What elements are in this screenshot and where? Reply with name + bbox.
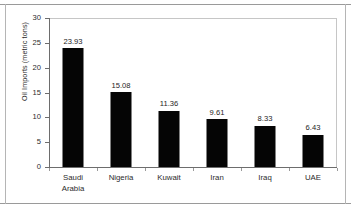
bar[interactable] bbox=[303, 135, 324, 167]
bar-value-label: 11.36 bbox=[160, 100, 178, 108]
x-axis-category: Kuwait bbox=[145, 173, 193, 184]
bar[interactable] bbox=[63, 48, 84, 167]
bar[interactable] bbox=[159, 111, 180, 167]
bar[interactable] bbox=[255, 126, 276, 167]
y-axis-tick-label: 30 bbox=[15, 14, 41, 22]
bar-value-label: 6.43 bbox=[306, 124, 321, 132]
x-axis-category-label: Iran bbox=[193, 173, 241, 184]
x-axis-category: Nigeria bbox=[97, 173, 145, 184]
bar-group[interactable]: 23.93 bbox=[49, 18, 97, 167]
x-axis-category-label: Iraq bbox=[241, 173, 289, 184]
y-axis-tick-label: 25 bbox=[15, 39, 41, 47]
y-axis-tick-label: 15 bbox=[15, 89, 41, 97]
bar[interactable] bbox=[111, 92, 132, 167]
x-axis-tick bbox=[193, 168, 194, 171]
x-axis-tick bbox=[145, 168, 146, 171]
x-axis-category-label: Kuwait bbox=[145, 173, 193, 184]
x-axis-tick bbox=[241, 168, 242, 171]
x-axis-category-label: Nigeria bbox=[97, 173, 145, 184]
x-axis-category-label: Saudi Arabia bbox=[49, 173, 97, 194]
y-axis-tick-label: 0 bbox=[15, 163, 41, 171]
bar-value-label: 8.33 bbox=[258, 115, 273, 123]
bar-group[interactable]: 6.43 bbox=[289, 18, 337, 167]
x-axis-tick bbox=[49, 168, 50, 171]
bar-chart-figure: Oil Imports (metric tons) 302520151050 2… bbox=[0, 0, 351, 215]
bars-layer: 23.9315.0811.369.618.336.43 bbox=[49, 18, 337, 167]
x-axis-category-label: UAE bbox=[289, 173, 337, 184]
x-axis-tick bbox=[289, 168, 290, 171]
x-axis-tick bbox=[97, 168, 98, 171]
bar-value-label: 23.93 bbox=[63, 38, 82, 46]
bar-value-label: 15.08 bbox=[111, 82, 130, 90]
bar-group[interactable]: 15.08 bbox=[97, 18, 145, 167]
x-axis-category: Saudi Arabia bbox=[49, 173, 97, 194]
y-axis-tick-label: 10 bbox=[15, 113, 41, 121]
x-axis-category-labels: Saudi ArabiaNigeriaKuwaitIranIraqUAE bbox=[49, 173, 337, 207]
bar-group[interactable]: 9.61 bbox=[193, 18, 241, 167]
x-axis-category: Iran bbox=[193, 173, 241, 184]
x-axis-tick bbox=[337, 168, 338, 171]
bar[interactable] bbox=[207, 119, 228, 167]
x-axis-category: Iraq bbox=[241, 173, 289, 184]
y-axis-tick-label: 5 bbox=[15, 138, 41, 146]
x-axis-category: UAE bbox=[289, 173, 337, 184]
y-axis-tick-label: 20 bbox=[15, 64, 41, 72]
bar-group[interactable]: 8.33 bbox=[241, 18, 289, 167]
bar-value-label: 9.61 bbox=[210, 109, 225, 117]
bar-group[interactable]: 11.36 bbox=[145, 18, 193, 167]
